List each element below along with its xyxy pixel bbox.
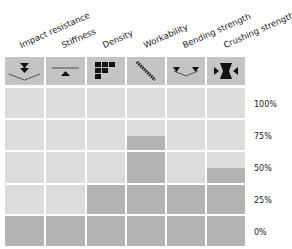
bending-strength-icon [167,57,205,85]
bar-stiffness [46,88,85,246]
bar-density [87,88,125,246]
label-impact-resistance: Impact resistance [18,10,91,50]
bar-impact-resistance [5,88,44,246]
ytick-0: 0% [254,228,267,237]
bar-crushing-strength [207,88,245,246]
label-bending-strength: Bending strength [181,11,252,50]
workability-icon [127,57,165,85]
bar-bending-strength [167,88,205,246]
crushing-strength-icon [207,57,245,85]
ytick-25: 25% [254,196,272,205]
ytick-50: 50% [254,164,272,173]
density-icon [87,57,125,85]
stiffness-icon [46,57,85,85]
ytick-75: 75% [254,132,272,141]
bar-workability [127,88,165,246]
impact-resistance-icon [5,57,44,85]
label-crushing-strength: Crushing strength [222,10,292,50]
ytick-100: 100% [254,100,277,109]
label-density: Density [101,28,135,50]
